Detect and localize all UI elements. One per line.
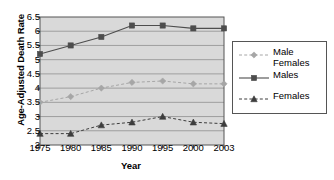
y-axis-tick-label: 4 — [16, 83, 40, 92]
x-axis-tick-labels: 1975198019851990199520002003 — [0, 142, 334, 156]
y-axis-tick-label: 6.5 — [16, 12, 40, 21]
y-axis-tick-label: 5.5 — [16, 40, 40, 49]
x-axis-tick-label: 1975 — [23, 142, 57, 153]
y-axis-tick-label: 3 — [16, 112, 40, 121]
y-axis-tick-label: 2.5 — [16, 126, 40, 135]
data-point-marker — [68, 43, 73, 48]
legend-label-line1: Males — [273, 69, 328, 80]
data-point-marker — [251, 75, 256, 80]
data-point-marker — [99, 34, 104, 39]
legend-label-line2: Females — [273, 57, 328, 68]
legend-label-line1: Male — [273, 46, 328, 57]
legend-item-males[interactable]: Males — [233, 69, 328, 87]
data-point-marker — [129, 23, 134, 28]
chart-legend: MaleFemalesMalesFemales — [232, 41, 327, 114]
x-axis-tick-label: 1990 — [115, 142, 149, 153]
data-point-marker — [160, 23, 165, 28]
legend-marker-icon — [237, 90, 271, 108]
legend-item-male-females[interactable]: MaleFemales — [233, 46, 328, 64]
x-axis-tick-label: 2003 — [207, 142, 241, 153]
y-axis-tick-label: 4.5 — [16, 69, 40, 78]
legend-marker-icon — [237, 69, 271, 87]
y-axis-tick-label: 3.5 — [16, 97, 40, 106]
legend-label: Females — [273, 90, 328, 101]
y-axis-tick-label: 6 — [16, 26, 40, 35]
chart-figure: Age-Adjusted Death Rate Year 6.565.554.5… — [0, 0, 334, 180]
data-point-marker — [221, 26, 226, 31]
x-axis-tick-label: 2000 — [176, 142, 210, 153]
data-point-marker — [251, 52, 257, 58]
legend-label: MaleFemales — [273, 46, 328, 68]
x-axis-tick-label: 1995 — [146, 142, 180, 153]
x-axis-tick-label: 1985 — [84, 142, 118, 153]
legend-label: Males — [273, 69, 328, 80]
x-axis-tick-label: 1980 — [54, 142, 88, 153]
legend-item-females[interactable]: Females — [233, 90, 328, 108]
data-point-marker — [191, 26, 196, 31]
y-axis-tick-label: 5 — [16, 55, 40, 64]
legend-label-line1: Females — [273, 90, 328, 101]
legend-marker-icon — [237, 46, 271, 64]
